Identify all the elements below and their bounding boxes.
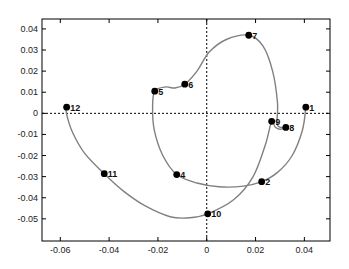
data-point-11: 11: [101, 169, 117, 179]
y-tick-label: 0: [33, 108, 38, 118]
point-marker: [101, 170, 108, 177]
point-marker: [282, 124, 289, 131]
trajectory-curve: [66, 35, 306, 218]
point-marker: [204, 210, 211, 217]
point-label: 2: [265, 177, 270, 187]
data-point-4: 4: [173, 170, 185, 180]
data-point-1: 1: [302, 103, 314, 113]
data-point-10: 10: [204, 209, 221, 219]
x-tick-label: -0.04: [99, 245, 120, 255]
point-label: 1: [309, 103, 314, 113]
point-marker: [173, 171, 180, 178]
x-tick-label: 0.04: [296, 245, 314, 255]
point-label: 6: [188, 80, 193, 90]
trajectory-path: [66, 35, 306, 218]
point-marker: [181, 81, 188, 88]
y-tick-label: -0.01: [17, 129, 38, 139]
labeled-points: 12456789101112: [63, 31, 314, 220]
point-marker: [268, 118, 275, 125]
point-label: 9: [275, 117, 280, 127]
y-tick-label: 0.03: [20, 45, 38, 55]
point-label: 7: [252, 31, 257, 41]
x-tick-label: -0.02: [148, 245, 169, 255]
data-point-8: 8: [282, 123, 294, 133]
data-point-6: 6: [181, 80, 193, 90]
x-tick-label: -0.06: [50, 245, 71, 255]
y-tick-label: 0.02: [20, 66, 38, 76]
axes: -0.06-0.04-0.0200.020.040.040.030.020.01…: [17, 19, 330, 255]
point-marker: [245, 32, 252, 39]
point-marker: [151, 88, 158, 95]
point-label: 10: [211, 209, 221, 219]
data-point-2: 2: [258, 177, 270, 187]
y-tick-label: -0.04: [17, 193, 38, 203]
point-label: 11: [108, 169, 118, 179]
point-label: 8: [289, 123, 294, 133]
x-tick-label: 0.02: [247, 245, 265, 255]
point-label: 4: [180, 170, 185, 180]
point-marker: [63, 104, 70, 111]
y-tick-label: -0.02: [17, 151, 38, 161]
point-marker: [302, 104, 309, 111]
point-label: 5: [158, 87, 163, 97]
point-label: 12: [70, 103, 80, 113]
y-tick-label: -0.05: [17, 214, 38, 224]
x-tick-label: 0: [204, 245, 209, 255]
data-point-7: 7: [245, 31, 257, 41]
trajectory-chart: 12456789101112 -0.06-0.04-0.0200.020.040…: [0, 0, 349, 269]
y-tick-label: 0.01: [20, 87, 38, 97]
point-marker: [258, 178, 265, 185]
y-tick-label: -0.03: [17, 172, 38, 182]
y-tick-label: 0.04: [20, 24, 38, 34]
